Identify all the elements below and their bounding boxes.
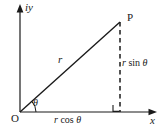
x-axis-label: x xyxy=(150,115,155,126)
radius-label: r xyxy=(58,54,62,65)
y-axis-label: iy xyxy=(25,2,33,13)
y-axis-arrowhead xyxy=(17,4,24,13)
theta-angle-label: θ xyxy=(33,98,38,108)
point-p-label: P xyxy=(127,12,133,23)
origin-label: O xyxy=(11,113,19,124)
r-sin-theta-label: r sin θ xyxy=(122,58,148,68)
r-cos-function-name: cos xyxy=(60,114,73,125)
polar-form-diagram: iy x O P r θ r sin θ r cos θ xyxy=(0,0,165,134)
r-cos-theta-label: r cos θ xyxy=(54,115,81,125)
r-sin-function-name: sin xyxy=(128,57,140,68)
right-angle-marker xyxy=(113,105,119,111)
r-sin-theta-symbol: θ xyxy=(143,57,148,68)
r-cos-theta-symbol: θ xyxy=(76,114,81,125)
